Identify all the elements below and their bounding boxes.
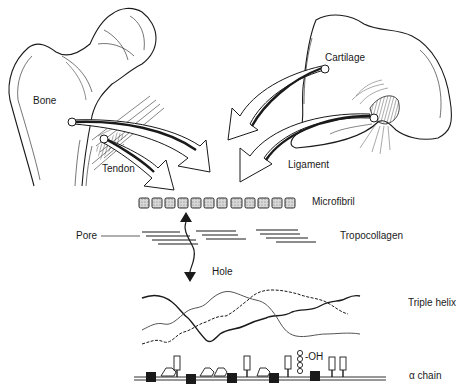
triple-helix: [142, 290, 360, 344]
label-hydroxyl: -OH: [305, 352, 323, 362]
label-tendon: Tendon: [102, 164, 135, 174]
label-ligament: Ligament: [288, 160, 329, 170]
label-bone: Bone: [33, 96, 56, 106]
label-microfibril: Microfibril: [312, 197, 355, 207]
alpha-chain: [134, 350, 386, 384]
collagen-diagram: Bone Tendon Cartilage Ligament Microfibr…: [0, 0, 470, 392]
label-alpha-chain: α chain: [409, 371, 441, 381]
hole-arrow-line: [185, 222, 194, 272]
cartilage-origin-marker: [321, 65, 329, 73]
label-tropocollagen: Tropocollagen: [340, 231, 403, 241]
label-hole: Hole: [212, 267, 233, 277]
knee-illustration: [291, 15, 451, 148]
ligament-origin-marker: [370, 114, 378, 122]
label-pore: Pore: [76, 231, 97, 241]
hole-arrowhead-down: [184, 272, 196, 282]
label-cartilage: Cartilage: [325, 53, 365, 63]
ligament-arrow: [240, 114, 370, 182]
hole-arrowhead-up: [180, 212, 192, 222]
tropocollagen-lines: [142, 230, 316, 244]
bone-origin-marker: [68, 118, 76, 126]
cartilage-arrow: [228, 66, 324, 140]
hydroxyl-group-circles: [297, 350, 302, 373]
diagram-canvas: [0, 0, 470, 392]
tendon-origin-marker: [100, 135, 108, 143]
label-triple-helix: Triple helix: [408, 298, 456, 308]
microfibril-row: [139, 198, 295, 208]
